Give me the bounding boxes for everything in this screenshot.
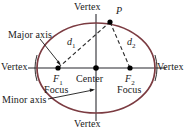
center-point [93, 65, 99, 71]
distance-d2-subscript: 2 [132, 42, 136, 50]
point-p-label: P [116, 5, 122, 16]
vertex-bottom-label: Vertex [74, 118, 101, 129]
focus-2-word-label: Focus [117, 84, 141, 95]
distance-d1-label: d1 [67, 36, 76, 52]
vertex-top-label: Vertex [74, 1, 101, 12]
major-axis-leader-arrowhead [57, 61, 62, 66]
distance-d1-subscript: 1 [72, 42, 76, 50]
major-axis-label: Major axis [8, 29, 52, 40]
minor-axis-leader-arrowhead [90, 88, 95, 92]
distance-d2-label: d2 [127, 36, 136, 52]
focus-2-point [127, 65, 132, 70]
focus-1-word-label: Focus [44, 84, 68, 95]
vertex-left-label: Vertex [1, 61, 28, 72]
point-p-marker [107, 19, 112, 24]
ellipse-diagram: Vertex Vertex Vertex Vertex P d1 d2 F1 F… [0, 0, 194, 131]
center-label: Center [76, 73, 103, 84]
focus-1-point [55, 65, 60, 70]
major-axis-leader-line [40, 39, 60, 64]
minor-axis-label: Minor axis [2, 94, 47, 105]
vertex-right-label: Vertex [157, 61, 184, 72]
